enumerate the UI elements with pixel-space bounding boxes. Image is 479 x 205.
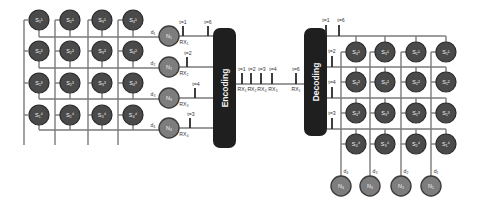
svg-text:d₄: d₄ bbox=[343, 168, 348, 174]
s-node: S₄³ bbox=[123, 73, 143, 93]
s-node: S₁¹ bbox=[436, 42, 456, 62]
s-node: S₄² bbox=[346, 72, 366, 92]
n-node: N₁ bbox=[421, 176, 441, 196]
s-node: S₂² bbox=[60, 41, 80, 61]
svg-text:N₂: N₂ bbox=[166, 64, 172, 70]
svg-text:N₁: N₁ bbox=[428, 183, 434, 189]
svg-text:S₃¹: S₃¹ bbox=[381, 49, 389, 55]
svg-text:N₂: N₂ bbox=[398, 183, 404, 189]
svg-text:S₁¹: S₁¹ bbox=[442, 49, 450, 55]
svg-text:S₁²: S₁² bbox=[35, 48, 43, 54]
svg-text:S₃²: S₃² bbox=[98, 48, 106, 54]
svg-text:t=6: t=6 bbox=[292, 66, 299, 72]
s-node: S₃³ bbox=[375, 103, 395, 123]
s-node: S₁² bbox=[436, 72, 456, 92]
svg-text:S₂¹: S₂¹ bbox=[66, 17, 74, 23]
svg-text:N₄: N₄ bbox=[166, 125, 173, 131]
svg-text:S₁⁴: S₁⁴ bbox=[442, 141, 451, 147]
svg-text:S₂⁴: S₂⁴ bbox=[412, 141, 421, 147]
s-node: S₂⁴ bbox=[406, 134, 426, 154]
n-node: N₂ bbox=[391, 176, 411, 196]
n-node: N₁ bbox=[159, 26, 179, 46]
s-node: S₂¹ bbox=[60, 10, 80, 30]
s-node: S₃³ bbox=[92, 73, 112, 93]
svg-text:t=4: t=4 bbox=[269, 66, 276, 72]
s-node: S₂⁴ bbox=[60, 105, 80, 125]
svg-text:RX₁: RX₁ bbox=[238, 86, 247, 92]
svg-text:d₄: d₄ bbox=[150, 122, 155, 128]
svg-text:RX₁: RX₁ bbox=[292, 86, 301, 92]
svg-text:S₄⁴: S₄⁴ bbox=[352, 141, 361, 147]
svg-text:RX₂: RX₂ bbox=[179, 70, 188, 76]
svg-text:RX₃: RX₃ bbox=[179, 101, 188, 107]
n-node: N₄ bbox=[331, 176, 351, 196]
svg-text:d₂: d₂ bbox=[151, 60, 156, 66]
encoding-block: Encoding bbox=[213, 28, 236, 148]
svg-text:S₁⁴: S₁⁴ bbox=[35, 112, 44, 118]
svg-text:t=2: t=2 bbox=[184, 50, 191, 56]
s-node: S₂³ bbox=[406, 103, 426, 123]
svg-text:RX₄: RX₄ bbox=[257, 86, 266, 92]
s-node: S₁⁴ bbox=[29, 105, 49, 125]
svg-text:S₄¹: S₄¹ bbox=[352, 49, 360, 55]
svg-text:t=4: t=4 bbox=[192, 81, 199, 87]
svg-text:S₄⁴: S₄⁴ bbox=[129, 112, 138, 118]
decoding-block: Decoding bbox=[304, 28, 327, 136]
svg-text:S₂²: S₂² bbox=[412, 79, 420, 85]
svg-text:S₂³: S₂³ bbox=[66, 80, 74, 86]
svg-text:t=3: t=3 bbox=[258, 66, 265, 72]
svg-text:N₁: N₁ bbox=[166, 33, 172, 39]
svg-text:t=3: t=3 bbox=[187, 111, 194, 117]
s-node: S₂¹ bbox=[406, 42, 426, 62]
svg-text:t=2: t=2 bbox=[248, 66, 255, 72]
right-n-nodes: d₄ d₃ d₂ d₁ N₄ N₃ N₂ N₁ bbox=[331, 168, 441, 196]
s-node: S₃¹ bbox=[92, 10, 112, 30]
s-node: S₁¹ bbox=[29, 10, 49, 30]
svg-text:t=4: t=4 bbox=[328, 79, 335, 85]
svg-text:N₃: N₃ bbox=[166, 95, 172, 101]
svg-text:S₄³: S₄³ bbox=[129, 80, 137, 86]
s-node: S₄⁴ bbox=[123, 105, 143, 125]
s-node: S₃² bbox=[375, 72, 395, 92]
svg-text:S₃⁴: S₃⁴ bbox=[381, 141, 390, 147]
svg-text:S₄¹: S₄¹ bbox=[129, 17, 137, 23]
svg-text:RX₂: RX₂ bbox=[247, 86, 256, 92]
svg-text:S₂³: S₂³ bbox=[412, 110, 420, 116]
s-node: S₁³ bbox=[436, 103, 456, 123]
svg-text:d₁: d₁ bbox=[434, 168, 439, 174]
svg-text:S₃⁴: S₃⁴ bbox=[98, 112, 107, 118]
left-n-nodes: N₁ N₂ N₃ N₄ RX₁ RX₂ RX₃ RX₄ t=1 t=6 t=2 … bbox=[159, 19, 213, 138]
s-node: S₂³ bbox=[60, 73, 80, 93]
svg-text:S₄²: S₄² bbox=[352, 79, 360, 85]
svg-text:t=3: t=3 bbox=[328, 110, 335, 116]
svg-text:N₃: N₃ bbox=[367, 183, 373, 189]
svg-text:Encoding: Encoding bbox=[220, 69, 230, 108]
svg-text:S₄²: S₄² bbox=[129, 48, 137, 54]
svg-text:RX₁: RX₁ bbox=[180, 39, 189, 45]
svg-text:RX₃: RX₃ bbox=[268, 86, 277, 92]
s-node: S₂² bbox=[406, 72, 426, 92]
n-node: N₃ bbox=[159, 88, 179, 108]
svg-text:d₃: d₃ bbox=[151, 91, 156, 97]
s-node: S₁² bbox=[29, 41, 49, 61]
s-node: S₃¹ bbox=[375, 42, 395, 62]
svg-text:S₁¹: S₁¹ bbox=[35, 17, 43, 23]
svg-text:t=2: t=2 bbox=[328, 48, 335, 54]
svg-text:S₂¹: S₂¹ bbox=[412, 49, 420, 55]
svg-text:t=1: t=1 bbox=[179, 19, 186, 25]
svg-text:S₂²: S₂² bbox=[66, 48, 74, 54]
svg-text:S₁³: S₁³ bbox=[442, 110, 450, 116]
s-node: S₄³ bbox=[346, 103, 366, 123]
s-node: S₄⁴ bbox=[346, 134, 366, 154]
svg-text:S₃²: S₃² bbox=[381, 79, 389, 85]
svg-text:S₃¹: S₃¹ bbox=[98, 17, 106, 23]
s-node: S₃⁴ bbox=[375, 134, 395, 154]
svg-text:d₂: d₂ bbox=[404, 168, 409, 174]
s-node: S₄² bbox=[123, 41, 143, 61]
s-node: S₁⁴ bbox=[436, 134, 456, 154]
s-node: S₃⁴ bbox=[92, 105, 112, 125]
s-node: S₄¹ bbox=[346, 42, 366, 62]
svg-text:S₂⁴: S₂⁴ bbox=[66, 112, 75, 118]
s-node: S₃² bbox=[92, 41, 112, 61]
svg-text:S₄³: S₄³ bbox=[352, 110, 360, 116]
